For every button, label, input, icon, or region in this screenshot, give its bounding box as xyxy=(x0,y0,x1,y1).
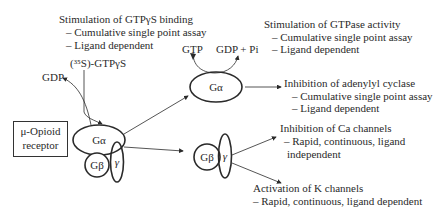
adenylyl-cyclase-item-1: – Cumulative single point assay xyxy=(292,90,433,103)
ca-channels-item-2: independent xyxy=(287,148,341,161)
arrow-to-gbetagamma xyxy=(124,147,183,151)
k-channels-item-1: – Rapid, continuous, ligand dependent xyxy=(253,195,422,208)
gdp-pi-label: GDP + Pi xyxy=(216,43,258,56)
g-alpha-right-label: Gα xyxy=(209,81,223,93)
gtpgs-binding-item-2: – Ligand dependent xyxy=(66,39,153,52)
gdp-label: GDP xyxy=(42,71,64,84)
gtpase-title: Stimulation of GTPase activity xyxy=(264,18,401,31)
arrow-to-galpha xyxy=(124,96,188,134)
gtp-label: GTP xyxy=(182,43,203,56)
g-alpha-left-label: Gα xyxy=(92,134,106,146)
gtpase-item-2: – Ligand dependent xyxy=(272,43,359,56)
adenylyl-cyclase-title: Inhibition of adenylyl cyclase xyxy=(284,77,415,90)
gtpgs-binding-title: Stimulation of GTPγS binding xyxy=(59,13,193,26)
receptor-line2: receptor xyxy=(14,138,67,152)
g-gamma-right-label: γ xyxy=(223,150,228,162)
ca-channels-item-1: – Rapid, continuous, ligand xyxy=(284,135,405,148)
arrow-to-k-channels xyxy=(232,163,281,183)
g-beta-right-label: Gβ xyxy=(200,151,214,163)
gdp-release-arrow xyxy=(63,78,91,125)
g-gamma-left-label: γ xyxy=(115,156,120,168)
ca-channels-title: Inhibition of Ca channels xyxy=(280,122,392,135)
gtpgs-binding-item-1: – Cumulative single point assay xyxy=(66,26,207,39)
mu-opioid-receptor-box: μ-Opioid receptor xyxy=(13,121,68,157)
gtpgs-label: (³⁵S)-GTPγS xyxy=(70,57,126,70)
k-channels-title: Activation of K channels xyxy=(253,182,363,195)
g-beta-left-label: Gβ xyxy=(90,159,104,171)
gtp-hydrolysis-arrow xyxy=(193,53,238,73)
gtpase-item-1: – Cumulative single point assay xyxy=(272,31,413,44)
receptor-line1: μ-Opioid xyxy=(14,124,67,138)
adenylyl-cyclase-item-2: – Ligand dependent xyxy=(292,102,379,115)
arrow-to-ca-channels xyxy=(232,137,276,155)
gtpgs-binding-arrow xyxy=(84,70,102,124)
